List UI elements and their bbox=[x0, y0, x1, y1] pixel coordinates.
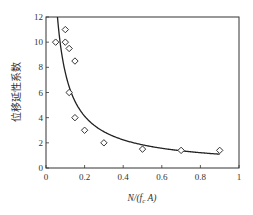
data-point-marker bbox=[62, 39, 68, 45]
y-tick-label: 12 bbox=[34, 12, 43, 22]
data-point-marker bbox=[101, 140, 107, 146]
data-point-marker bbox=[81, 127, 87, 133]
y-tick-label: 10 bbox=[34, 37, 44, 47]
y-tick-label: 2 bbox=[39, 138, 44, 148]
y-tick-label: 0 bbox=[39, 163, 44, 173]
x-tick-label: 1 bbox=[237, 172, 242, 182]
data-point-marker bbox=[178, 147, 184, 153]
data-point-marker bbox=[139, 146, 145, 152]
y-axis-label: 位移延性系数 bbox=[10, 62, 22, 122]
x-tick-label: 0.2 bbox=[79, 172, 90, 182]
y-tick-label: 6 bbox=[39, 88, 44, 98]
y-axis-ticks: 024681012 bbox=[34, 12, 49, 173]
data-point-marker bbox=[62, 26, 68, 32]
fit-curve bbox=[57, 17, 219, 154]
x-tick-label: 0 bbox=[44, 172, 49, 182]
data-markers bbox=[52, 26, 222, 153]
x-axis-label: N/(fc A) bbox=[126, 193, 156, 205]
data-point-marker bbox=[217, 147, 223, 153]
data-point-marker bbox=[66, 45, 72, 51]
data-point-marker bbox=[52, 39, 58, 45]
data-point-marker bbox=[72, 58, 78, 64]
x-tick-label: 0.4 bbox=[118, 172, 130, 182]
data-point-marker bbox=[72, 114, 78, 120]
chart: 00.20.40.60.81 024681012 位移延性系数 N/(fc A) bbox=[0, 0, 253, 215]
y-tick-label: 8 bbox=[39, 62, 44, 72]
x-tick-label: 0.8 bbox=[195, 172, 207, 182]
x-tick-label: 0.6 bbox=[156, 172, 168, 182]
y-tick-label: 4 bbox=[39, 113, 44, 123]
